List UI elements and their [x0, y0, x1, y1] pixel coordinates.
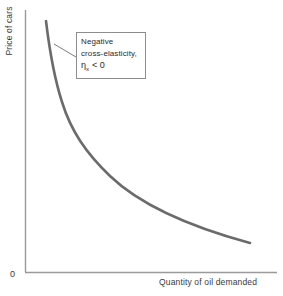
negative-cross-elasticity-callout: Negative cross-elasticity, ηx< 0 — [76, 32, 146, 79]
x-axis-label: Quantity of oil demanded — [159, 277, 257, 287]
callout-formula: ηx< 0 — [81, 59, 145, 75]
origin-label: 0 — [10, 269, 15, 279]
callout-line-1: Negative — [81, 36, 145, 48]
callout-leader-line — [54, 44, 76, 57]
eta-subscript: x — [86, 66, 89, 72]
formula-relation: < 0 — [92, 60, 105, 70]
callout-line-2: cross-elasticity, — [81, 48, 145, 60]
y-axis-label: Price of cars — [4, 0, 14, 66]
chart-figure: Price of cars Quantity of oil demanded 0… — [0, 0, 283, 296]
